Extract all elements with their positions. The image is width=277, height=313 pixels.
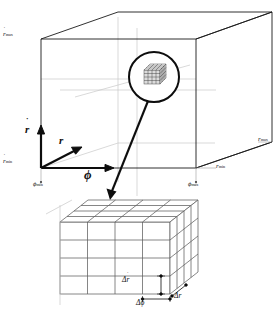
label-delta-phi: Δϕ [136, 299, 144, 307]
phi-min-subscript: min [36, 182, 42, 187]
axis-label-r: r [59, 135, 63, 146]
rdot-min-subscript: min [6, 159, 12, 164]
label-rdot-min: ˙ r min [3, 158, 12, 165]
diagram-vector-layer [0, 0, 277, 313]
r-max-subscript: max [261, 137, 268, 142]
label-delta-r: Δr [174, 292, 181, 300]
rdot-max-symbol: ˙ r [3, 31, 6, 38]
r-min-subscript: min [219, 164, 225, 169]
label-rdot-max: ˙ r max [3, 31, 13, 38]
axis-label-rdot: ˙ r [25, 124, 29, 135]
label-phi-max: ϕmax [188, 181, 198, 188]
magnified-cell-cluster [144, 64, 166, 84]
label-r-min: rmin [216, 163, 225, 170]
interior-guide-lines [41, 17, 216, 196]
phi-max-subscript: max [191, 182, 198, 187]
bound-tick-marks [40, 181, 197, 183]
label-delta-rdot: Δ ˙ r [122, 276, 129, 284]
rdot-min-symbol: ˙ r [3, 158, 6, 165]
label-r-max: rmax [258, 136, 268, 143]
label-phi-min: ϕmin [33, 181, 43, 188]
rdot-max-subscript: max [6, 32, 13, 37]
callout-arrow [107, 101, 149, 200]
axis-label-phi: ϕ [84, 168, 92, 181]
diagram-canvas: ˙ r max ˙ r min rmax rmin ϕmin ϕmax ˙ r … [0, 0, 277, 313]
